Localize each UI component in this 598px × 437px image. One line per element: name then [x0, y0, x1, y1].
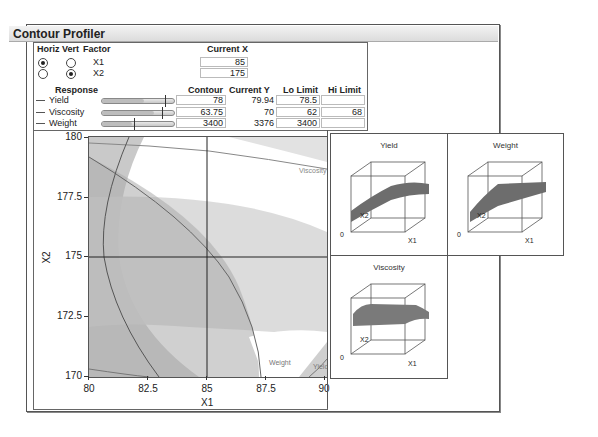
y-axis-label: X2: [41, 251, 52, 263]
x-tick-label: 80: [83, 383, 94, 394]
surface-axis-x2: X2: [360, 336, 369, 343]
contour-header: Contour: [188, 85, 223, 95]
viscosity-surface-svg: [331, 256, 447, 378]
x-tick: [324, 376, 325, 380]
yield-curve-label: Yield: [313, 363, 328, 370]
weight-surface-svg: [448, 134, 563, 255]
viscosity-current-y: 70: [228, 107, 274, 117]
contour-plot-area[interactable]: Viscosity Weight Yield: [88, 136, 328, 378]
response-header: Response: [55, 85, 98, 95]
weight-current-y: 3376: [228, 118, 274, 128]
vert-header: Vert: [62, 44, 79, 54]
y-tick-label: 180: [42, 131, 82, 142]
x1-vert-radio[interactable]: [66, 58, 76, 68]
x1-horiz-radio[interactable]: [38, 58, 48, 68]
viscosity-contour-input[interactable]: 63.75: [176, 107, 226, 117]
yield-contour-input[interactable]: 78: [176, 95, 226, 105]
hi-limit-header: Hi Limit: [328, 85, 361, 95]
y-tick: [84, 137, 88, 138]
yield-slider-thumb[interactable]: [165, 95, 166, 107]
surface-axis-x1: X1: [525, 237, 534, 244]
viscosity-legend-line: [36, 112, 45, 113]
yield-lo-limit-input[interactable]: 78.5: [276, 95, 320, 105]
yield-slider[interactable]: [101, 98, 175, 104]
y-tick-label: 172.5: [42, 310, 82, 321]
viscosity-lo-limit-input[interactable]: 62: [276, 107, 320, 117]
yield-label: Yield: [49, 95, 69, 105]
y-tick-label: 177.5: [42, 191, 82, 202]
weight-hi-limit-input[interactable]: [321, 118, 365, 128]
surface-origin: 0: [340, 354, 344, 361]
viscosity-slider-thumb[interactable]: [162, 107, 163, 119]
x-tick: [265, 376, 266, 380]
x2-current-input[interactable]: 175: [200, 68, 248, 78]
yield-surface-svg: [331, 134, 447, 255]
x-tick-label: 82.5: [138, 383, 157, 394]
contour-plot-svg: [89, 137, 327, 377]
weight-curve-label: Weight: [269, 359, 291, 366]
weight-slider[interactable]: [101, 121, 175, 127]
factor-x2-label: X2: [93, 68, 104, 78]
surface-axis-x2: X2: [477, 212, 486, 219]
x-tick: [147, 376, 148, 380]
x-tick-label: 85: [201, 383, 212, 394]
surface-axis-x1: X1: [408, 360, 417, 367]
factor-x1-label: X1: [93, 57, 104, 67]
current-x-header: Current X: [207, 44, 248, 54]
weight-lo-limit-input[interactable]: 3400: [276, 118, 320, 128]
y-tick: [84, 197, 88, 198]
x-axis-label: X1: [201, 397, 213, 408]
window-title: Contour Profiler: [13, 27, 105, 41]
x-tick-label: 87.5: [256, 383, 275, 394]
y-tick-label: 170: [42, 370, 82, 381]
x2-vert-radio[interactable]: [66, 69, 76, 79]
x2-horiz-radio[interactable]: [38, 69, 48, 79]
viscosity-curve-label: Viscosity: [299, 167, 327, 174]
viscosity-hi-limit-input[interactable]: 68: [321, 107, 365, 117]
y-tick: [84, 256, 88, 257]
weight-slider-thumb[interactable]: [134, 118, 135, 130]
viscosity-label: Viscosity: [49, 107, 84, 117]
yield-hi-limit-input[interactable]: [321, 95, 365, 105]
x-tick: [88, 376, 89, 380]
weight-contour-input[interactable]: 3400: [176, 118, 226, 128]
surface-origin: 0: [340, 231, 344, 238]
x1-current-input[interactable]: 85: [200, 57, 248, 67]
surface-axis-x2: X2: [360, 212, 369, 219]
surface-plot-viscosity[interactable]: Viscosity X2 0 X1: [330, 255, 448, 379]
yield-legend-line: [36, 100, 45, 101]
weight-legend-line: [36, 123, 45, 124]
y-tick: [84, 316, 88, 317]
current-y-header: Current Y: [229, 85, 270, 95]
yield-current-y: 79.94: [228, 95, 274, 105]
surface-plot-weight[interactable]: Weight X2 0 X1: [447, 133, 564, 256]
weight-label: Weight: [49, 118, 77, 128]
viscosity-slider[interactable]: [101, 110, 175, 116]
divider: [327, 130, 328, 408]
y-tick: [84, 376, 88, 377]
x-tick: [206, 376, 207, 380]
horiz-header: Horiz: [37, 44, 60, 54]
factor-header: Factor: [83, 44, 111, 54]
surface-origin: 0: [457, 231, 461, 238]
surface-axis-x1: X1: [408, 237, 417, 244]
surface-plot-yield[interactable]: Yield X2 0 X1: [330, 133, 448, 256]
lo-limit-header: Lo Limit: [283, 85, 318, 95]
